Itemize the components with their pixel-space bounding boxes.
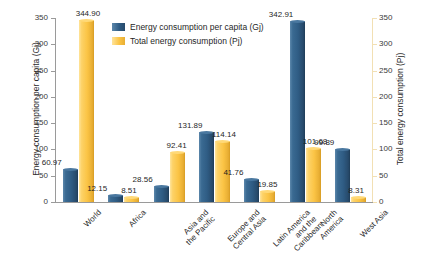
right-tick-label: 50 bbox=[379, 172, 405, 180]
bar-top-cap bbox=[260, 190, 275, 193]
left-tick-label: 300 bbox=[22, 40, 48, 48]
right-tick bbox=[373, 71, 377, 72]
bar-top-cap bbox=[124, 196, 139, 199]
left-tick-label: 250 bbox=[22, 67, 48, 75]
right-tick bbox=[373, 97, 377, 98]
grouped-bar-chart: Energy consumption per capita (Gj) Total… bbox=[0, 0, 428, 269]
category-label: NorthAmerica bbox=[311, 208, 344, 241]
bar-value-label: 114.14 bbox=[212, 131, 236, 139]
bar-value-label: 12.15 bbox=[87, 185, 107, 193]
category-label: Europe andCentral Asia bbox=[225, 208, 268, 251]
bar-top-cap bbox=[306, 147, 321, 150]
bar-blue bbox=[199, 132, 214, 202]
left-tick-label: 0 bbox=[22, 198, 48, 206]
bar-blue bbox=[108, 195, 123, 202]
category-label: Asia andthe Pacific bbox=[177, 208, 216, 247]
bar-top-cap bbox=[79, 19, 94, 22]
right-tick bbox=[373, 176, 377, 177]
x-axis-line bbox=[55, 202, 373, 203]
legend-label-total: Total energy consumption (Pj) bbox=[130, 36, 242, 46]
bar-value-label: 28.56 bbox=[133, 176, 153, 184]
left-tick bbox=[51, 202, 55, 203]
bar-yellow bbox=[124, 197, 139, 202]
bar-yellow bbox=[170, 152, 185, 202]
legend-label-per-capita: Energy consumption per capita (Gj) bbox=[130, 22, 264, 32]
bar-value-label: 8.51 bbox=[121, 187, 137, 195]
bar-value-label: 344.90 bbox=[76, 10, 100, 18]
bar-value-label: 131.89 bbox=[178, 122, 202, 130]
legend-swatch-icon-total bbox=[112, 37, 125, 45]
bar-yellow bbox=[306, 148, 321, 202]
right-tick-label: 300 bbox=[379, 40, 405, 48]
bar-value-label: 92.41 bbox=[167, 142, 187, 150]
bar-blue bbox=[63, 169, 78, 202]
bar-value-label: 41.76 bbox=[223, 169, 243, 177]
right-tick-label: 250 bbox=[379, 67, 405, 75]
bar-blue bbox=[154, 186, 169, 202]
right-tick bbox=[373, 18, 377, 19]
bar-group: 99.898.31 bbox=[334, 18, 367, 202]
bar-value-label: 8.31 bbox=[348, 187, 364, 195]
legend: Energy consumption per capita (Gj) Total… bbox=[112, 21, 264, 49]
legend-item-total: Total energy consumption (Pj) bbox=[112, 35, 264, 47]
right-tick-label: 100 bbox=[379, 145, 405, 153]
right-tick-label: 350 bbox=[379, 14, 405, 22]
category-label: West Asia bbox=[359, 208, 390, 239]
bar-value-label: 19.85 bbox=[257, 181, 277, 189]
left-tick-label: 350 bbox=[22, 14, 48, 22]
right-tick-label: 0 bbox=[379, 198, 405, 206]
category-label: Africa bbox=[127, 208, 148, 229]
legend-item-per-capita: Energy consumption per capita (Gj) bbox=[112, 21, 264, 33]
left-tick-label: 100 bbox=[22, 145, 48, 153]
right-tick bbox=[373, 202, 377, 203]
legend-swatch-icon-per-capita bbox=[112, 23, 125, 31]
right-tick-label: 200 bbox=[379, 93, 405, 101]
bar-value-label: 342.91 bbox=[269, 11, 293, 19]
bar-top-cap bbox=[63, 168, 78, 171]
right-tick bbox=[373, 123, 377, 124]
left-tick-label: 200 bbox=[22, 93, 48, 101]
left-tick-label: 50 bbox=[22, 172, 48, 180]
right-tick-label: 150 bbox=[379, 119, 405, 127]
bar-top-cap bbox=[290, 20, 305, 23]
right-tick bbox=[373, 44, 377, 45]
bar-yellow bbox=[260, 191, 275, 202]
category-label: World bbox=[82, 208, 103, 229]
right-tick bbox=[373, 149, 377, 150]
bar-group: 60.97344.90 bbox=[62, 18, 95, 202]
left-tick-label: 150 bbox=[22, 119, 48, 127]
bar-top-cap bbox=[215, 140, 230, 143]
bar-top-cap bbox=[351, 196, 366, 199]
bar-blue bbox=[290, 21, 305, 202]
bar-group: 342.91101.68 bbox=[289, 18, 322, 202]
bar-top-cap bbox=[170, 151, 185, 154]
bar-top-cap bbox=[154, 185, 169, 188]
bar-top-cap bbox=[335, 148, 350, 151]
bar-yellow bbox=[79, 20, 94, 202]
bar-value-label: 99.89 bbox=[314, 139, 334, 147]
bar-value-label: 60.97 bbox=[42, 159, 62, 167]
bar-yellow bbox=[351, 197, 366, 202]
